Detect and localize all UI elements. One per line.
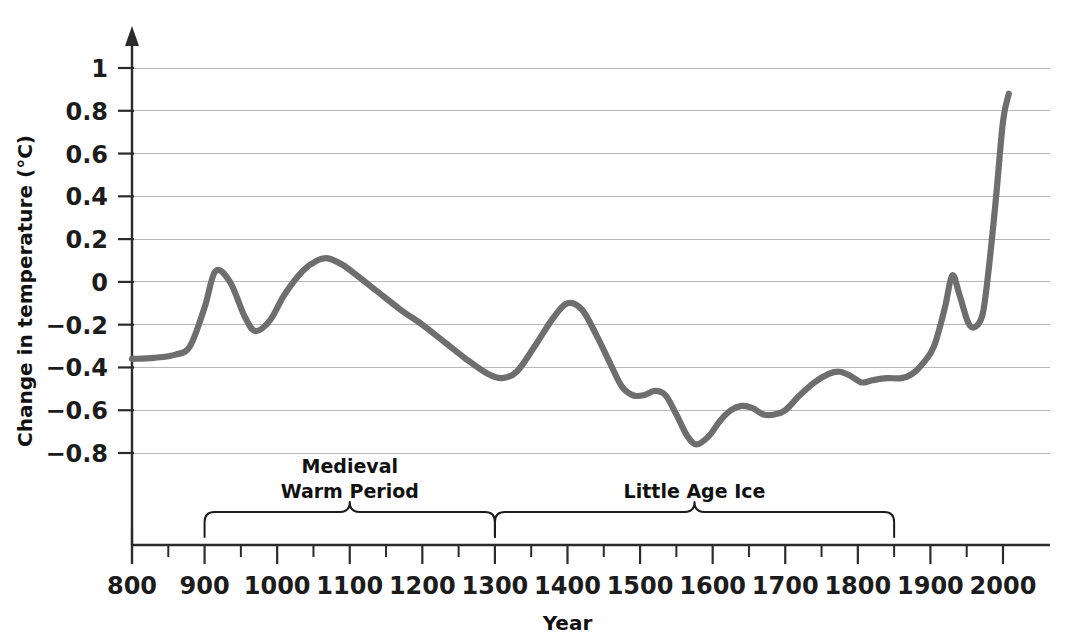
y-axis-tick-label: 0.6: [65, 141, 108, 169]
x-axis-tick-label: 1600: [679, 572, 746, 600]
annotation-medieval-warm-period-line1: Medieval: [301, 455, 398, 477]
y-axis-tick-label: 0: [91, 269, 108, 297]
x-axis-tick-label: 1700: [752, 572, 819, 600]
y-axis-title: Change in temperature (°C): [13, 135, 37, 447]
x-axis-title: Year: [542, 611, 593, 635]
x-axis-tick-label: 2000: [970, 572, 1037, 600]
x-axis-tick-label: 1900: [897, 572, 964, 600]
x-axis-tick-label: 1800: [824, 572, 891, 600]
brace-medieval-warm-period: [205, 502, 495, 537]
x-axis-tick-labels-group: 8009001000110012001300140015001600170018…: [107, 572, 1036, 600]
y-axis-tick-label: −0.6: [45, 397, 108, 425]
brace-little-age-ice: [495, 502, 894, 537]
x-axis-tick-label: 1100: [316, 572, 383, 600]
climate-line-chart: 10.80.60.40.20−0.2−0.4−0.6−0.8 800900100…: [0, 0, 1066, 642]
x-axis-tick-label: 1000: [244, 572, 311, 600]
annotation-medieval-warm-period-line2: Warm Period: [281, 480, 419, 502]
y-axis-tick-label: 0.4: [65, 183, 108, 211]
y-axis-tick-label: −0.8: [45, 440, 108, 468]
y-axis-tick-labels-group: 10.80.60.40.20−0.2−0.4−0.6−0.8: [45, 55, 108, 468]
x-axis-tick-label: 800: [107, 572, 157, 600]
y-axis-tick-label: −0.4: [45, 354, 108, 382]
y-axis-tick-label: 0.2: [65, 226, 108, 254]
temperature-series-line: [132, 94, 1009, 445]
y-axis-tick-label: 0.8: [65, 98, 108, 126]
x-axis-tick-label: 900: [180, 572, 230, 600]
y-axis-arrow-icon: [125, 26, 139, 46]
y-axis-tick-label: −0.2: [45, 312, 108, 340]
x-axis-tick-label: 1200: [389, 572, 456, 600]
x-axis-tick-label: 1400: [534, 572, 601, 600]
period-braces-group: [205, 502, 895, 537]
x-axis-tick-label: 1300: [462, 572, 529, 600]
annotation-little-age-ice-line1: Little Age Ice: [624, 480, 766, 502]
gridlines-group: [132, 68, 1050, 453]
x-axis-tick-label: 1500: [607, 572, 674, 600]
chart-canvas: 10.80.60.40.20−0.2−0.4−0.6−0.8 800900100…: [0, 0, 1066, 642]
y-axis-tick-label: 1: [91, 55, 108, 83]
